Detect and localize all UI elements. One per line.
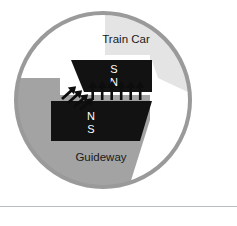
horizontal-divider bbox=[0, 206, 237, 207]
maglev-cross-section-diagram: S N N S bbox=[0, 0, 237, 200]
upper-magnet-pole-top: S bbox=[110, 63, 117, 75]
guideway-label: Guideway bbox=[75, 151, 126, 163]
guideway-magnet bbox=[51, 101, 152, 141]
lower-magnet-pole-top: N bbox=[87, 110, 95, 122]
lower-magnet-pole-bottom: S bbox=[87, 123, 94, 135]
train-car-label: Train Car bbox=[102, 33, 150, 45]
figure-root: S N N S bbox=[0, 0, 237, 226]
